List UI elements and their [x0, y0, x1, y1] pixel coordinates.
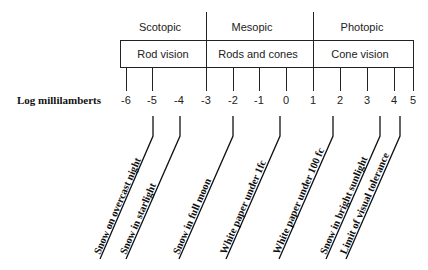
svg-text:-6: -6	[121, 94, 131, 106]
svg-text:4: 4	[391, 94, 397, 106]
svg-text:-4: -4	[174, 94, 184, 106]
tick-labels: -6 -5 -4 -3 -2 -1 0 1 2 3 4 5	[121, 94, 416, 106]
example-snow-full-moon: Snow in full moon	[171, 177, 213, 256]
svg-text:2: 2	[337, 94, 343, 106]
regime-label-photopic: Photopic	[341, 21, 384, 33]
example-white-paper-100fc: White paper under 100 fc	[271, 146, 327, 256]
svg-text:3: 3	[364, 94, 370, 106]
svg-text:-3: -3	[201, 94, 211, 106]
regime-label-mesopic: Mesopic	[232, 21, 273, 33]
example-white-paper-1fc: White paper under 1fc	[218, 158, 268, 256]
luminance-scale-diagram: Scotopic Mesopic Photopic Rod vision Rod…	[0, 0, 428, 270]
svg-text:5: 5	[410, 94, 416, 106]
svg-text:0: 0	[283, 94, 289, 106]
tick-marks	[127, 67, 414, 91]
vision-label-rods-cones: Rods and cones	[218, 48, 298, 60]
svg-text:1: 1	[310, 94, 316, 106]
svg-text:-5: -5	[147, 94, 157, 106]
axis-title: Log millilamberts	[17, 94, 102, 106]
example-snow-overcast-night: Snow on overcast night	[92, 156, 143, 256]
regime-label-scotopic: Scotopic	[139, 21, 182, 33]
vision-label-rod: Rod vision	[137, 48, 188, 60]
example-labels: Snow on overcast night Snow in starlight…	[92, 146, 391, 256]
svg-text:-2: -2	[228, 94, 238, 106]
svg-text:-1: -1	[254, 94, 264, 106]
vision-label-cone: Cone vision	[331, 48, 388, 60]
